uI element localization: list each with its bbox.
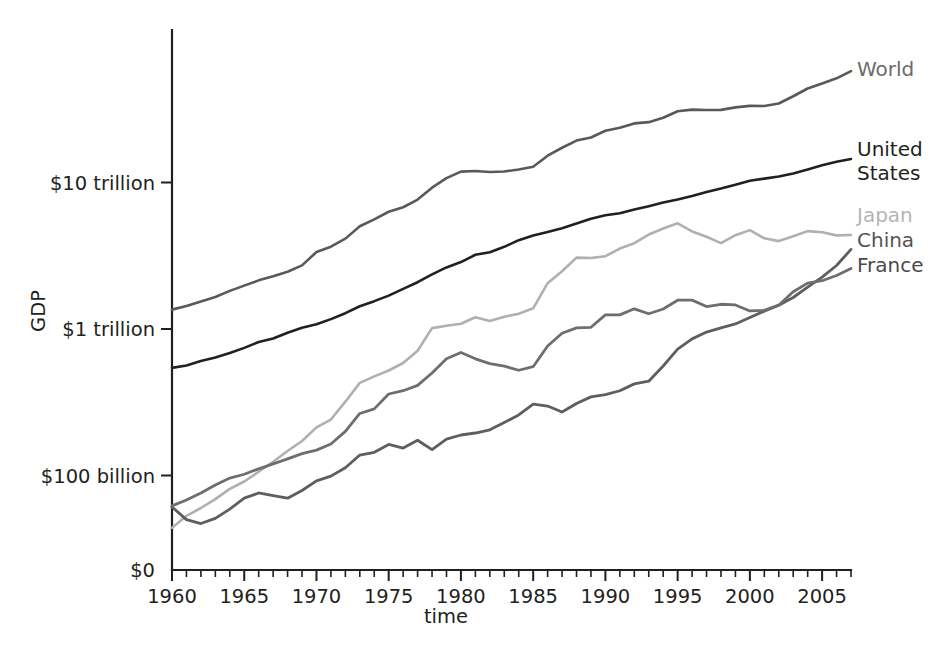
series-lines-group	[172, 71, 851, 528]
x-tick-label: 1975	[364, 585, 414, 608]
y-axis-title: GDP	[27, 290, 50, 332]
series-label-france: France	[857, 253, 924, 277]
x-axis-title: time	[424, 605, 468, 628]
x-tick-label: 1995	[653, 585, 703, 608]
y-tick-label: $10 trillion	[50, 172, 155, 195]
y-tick-label-group: $10 trillion$1 trillion$100 billion$0	[41, 172, 155, 583]
series-label-group: WorldUnitedStatesJapanChinaFrance	[855, 57, 924, 277]
x-tick-label: 1960	[147, 585, 197, 608]
x-tick-label: 1990	[581, 585, 631, 608]
x-tick-label: 1965	[219, 585, 269, 608]
gdp-line-chart: 1960196519701975198019851990199520002005…	[0, 0, 942, 655]
series-label-united-states: United	[857, 137, 923, 161]
series-label-world: World	[857, 57, 914, 81]
y-tick-group	[161, 183, 172, 476]
series-label-united-states: States	[857, 161, 920, 185]
series-label-japan: Japan	[855, 203, 913, 227]
y-tick-label: $100 billion	[41, 465, 155, 488]
series-line-japan	[172, 223, 851, 527]
x-tick-label: 1985	[508, 585, 558, 608]
series-label-china: China	[857, 228, 914, 252]
chart-canvas: 1960196519701975198019851990199520002005…	[0, 0, 942, 655]
series-line-china	[172, 249, 851, 523]
x-tick-label: 1970	[292, 585, 342, 608]
series-line-world	[172, 71, 851, 310]
y-tick-label: $0	[130, 559, 155, 582]
x-tick-label-group: 1960196519701975198019851990199520002005	[147, 585, 847, 608]
x-tick-label: 2005	[797, 585, 847, 608]
x-tick-group	[172, 570, 851, 581]
series-line-france	[172, 269, 851, 506]
x-tick-label: 2000	[725, 585, 775, 608]
series-line-united-states	[172, 159, 851, 368]
axes-group	[172, 30, 851, 570]
y-tick-label: $1 trillion	[62, 318, 155, 341]
